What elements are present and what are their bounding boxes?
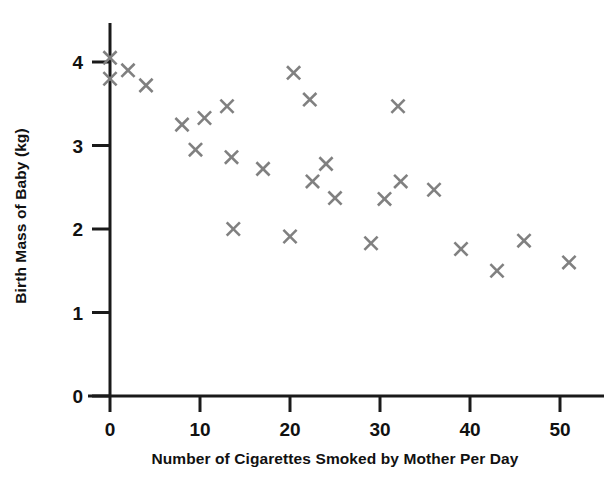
data-point-marker — [283, 230, 296, 243]
data-point-marker — [121, 64, 134, 77]
data-point-marker — [227, 222, 240, 235]
x-tick-label: 20 — [279, 419, 300, 440]
data-point-marker — [490, 264, 503, 277]
y-tick-label: 3 — [72, 136, 83, 157]
data-point-marker — [517, 234, 530, 247]
data-point-marker — [391, 100, 404, 113]
x-tick-label: 0 — [105, 419, 116, 440]
x-tick-label: 10 — [189, 419, 210, 440]
y-tick-label: 0 — [72, 386, 83, 407]
y-tick-label: 1 — [72, 303, 83, 324]
data-point-marker — [189, 143, 202, 156]
y-tick-label: 2 — [72, 219, 83, 240]
data-point-marker — [303, 93, 316, 106]
data-point-marker — [427, 183, 440, 196]
data-point-marker — [306, 175, 319, 188]
data-point-marker — [328, 192, 341, 205]
x-axis-tick-labels: 01020304050 — [105, 419, 571, 440]
plot-area: 01020304050 01234 Number of Cigarettes S… — [0, 0, 604, 480]
data-point-marker — [394, 175, 407, 188]
data-point-marker — [175, 118, 188, 131]
y-axis-tick-labels: 01234 — [72, 52, 83, 407]
data-point-marker — [225, 151, 238, 164]
data-point-marker — [562, 256, 575, 269]
data-point-marker — [220, 100, 233, 113]
axes — [88, 23, 604, 396]
data-point-marker — [454, 242, 467, 255]
data-point-marker — [364, 237, 377, 250]
data-point-marker — [139, 79, 152, 92]
y-tick-label: 4 — [72, 52, 83, 73]
tick-marks — [92, 62, 560, 412]
x-tick-label: 50 — [549, 419, 570, 440]
x-axis-title: Number of Cigarettes Smoked by Mother Pe… — [151, 450, 518, 467]
data-point-marker — [319, 157, 332, 170]
data-point-marker — [198, 111, 211, 124]
x-tick-label: 40 — [459, 419, 480, 440]
scatter-chart: 01020304050 01234 Number of Cigarettes S… — [0, 0, 604, 480]
data-points — [103, 51, 575, 277]
data-point-marker — [256, 162, 269, 175]
x-tick-label: 30 — [369, 419, 390, 440]
y-axis-title: Birth Mass of Baby (kg) — [12, 128, 29, 303]
data-point-marker — [378, 192, 391, 205]
data-point-marker — [287, 66, 300, 79]
